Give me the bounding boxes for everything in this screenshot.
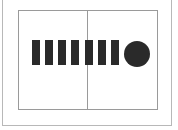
bar-7 [111,40,119,65]
diagram-canvas [0,0,178,130]
bar-5 [85,40,93,65]
circle-shape [124,41,150,67]
bar-4 [71,40,79,65]
bar-6 [98,40,106,65]
bar-3 [58,40,66,65]
bar-1 [32,40,40,65]
bar-2 [45,40,53,65]
